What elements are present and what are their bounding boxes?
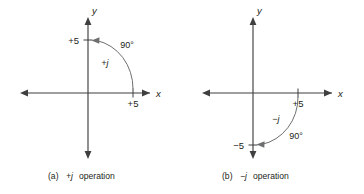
x-axis-label-b: x [337,88,344,99]
caption-operator-b: −j [240,171,248,181]
figure-container: x y +5 +5 +j 90° (a) +j operation [0,0,364,194]
x-axis-arrowhead-right-b [324,90,332,97]
x-tick-label-a: +5 [128,98,139,109]
rotation-arc-arrowhead-a [92,37,100,44]
y-axis-label-b: y [256,5,263,16]
y-axis-arrowhead-up-a [85,17,92,25]
angle-label-b: 90° [289,131,303,141]
caption-suffix-b: operation [253,171,289,181]
y-tick-label-a: +5 [68,35,79,46]
x-axis-a [20,90,150,97]
caption-a: (a) +j operation [48,171,115,181]
y-axis-b [250,17,257,159]
caption-prefix-b: (b) [222,171,233,181]
angle-label-a: 90° [120,40,134,50]
x-axis-label-a: x [155,88,162,99]
operator-label-b: −j [272,114,280,124]
caption-suffix-a: operation [79,171,115,181]
diagram-panel-b: x y +5 −5 −j 90° (b) −j operation [182,0,364,194]
y-axis-arrowhead-down-a [85,151,92,159]
caption-operator-a: +j [66,171,74,181]
operator-label-a: +j [101,58,109,68]
x-axis-arrowhead-left-a [20,90,28,97]
caption-prefix-a: (a) [48,171,59,181]
y-axis-label-a: y [91,5,98,16]
rotation-arc-arrowhead-b [257,141,265,148]
diagram-panel-a: x y +5 +5 +j 90° (a) +j operation [0,0,182,194]
y-axis-arrowhead-down-b [250,151,257,159]
y-tick-label-b: −5 [233,140,244,151]
x-axis-arrowhead-right-a [142,90,150,97]
y-axis-arrowhead-up-b [250,17,257,25]
x-axis-b [202,90,332,97]
y-axis-a [85,17,92,159]
caption-b: (b) −j operation [222,171,289,181]
x-axis-arrowhead-left-b [202,90,210,97]
